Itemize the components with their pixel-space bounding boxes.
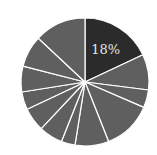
pie-labels: 18%: [91, 42, 120, 57]
slice-percent-label: 18%: [91, 42, 120, 57]
pie-chart: 18%: [0, 0, 157, 155]
pie-slices: [21, 18, 149, 146]
